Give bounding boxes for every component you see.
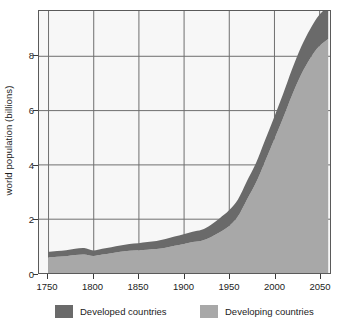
x-tick-label: 1750	[37, 281, 58, 292]
x-tick-label: 2000	[264, 281, 285, 292]
legend-label-developing: Developing countries	[225, 306, 314, 317]
legend-label-developed: Developed countries	[80, 306, 167, 317]
x-tick-mark	[275, 274, 276, 279]
x-tick-mark	[229, 274, 230, 279]
x-tick-label: 1900	[173, 281, 194, 292]
stacked-area-plot	[39, 11, 330, 273]
x-tick-label: 1950	[219, 281, 240, 292]
chart-legend: Developed countries Developing countries	[38, 301, 331, 323]
x-tick-mark	[47, 274, 48, 279]
legend-swatch-developed	[55, 305, 73, 318]
legend-item-developing: Developing countries	[200, 301, 314, 321]
legend-swatch-developing	[200, 305, 218, 318]
x-tick-mark	[320, 274, 321, 279]
legend-item-developed: Developed countries	[55, 301, 167, 321]
chart-figure: world population (billions) 02468 175018…	[0, 0, 347, 332]
x-tick-mark	[184, 274, 185, 279]
x-tick-label: 1800	[82, 281, 103, 292]
x-tick-mark	[138, 274, 139, 279]
x-tick-mark	[93, 274, 94, 279]
y-tick-mark	[33, 274, 38, 275]
area-series-group	[48, 11, 328, 273]
plot-area	[38, 10, 331, 274]
x-tick-label: 1850	[128, 281, 149, 292]
x-tick-label: 2050	[310, 281, 331, 292]
